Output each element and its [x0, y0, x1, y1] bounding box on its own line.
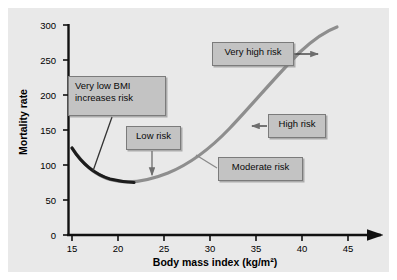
y-tick-50: 50 — [30, 195, 56, 206]
chart-figure: 300 250 200 150 100 50 0 15 20 25 30 35 … — [0, 0, 397, 280]
x-tick-40: 40 — [290, 243, 314, 254]
x-tick-30: 30 — [198, 243, 222, 254]
annotation-very-low-bmi: Very low BMI increases risk — [68, 76, 166, 116]
chart-canvas — [0, 0, 397, 280]
annotation-very-high-risk: Very high risk — [212, 42, 294, 66]
y-tick-200: 200 — [30, 90, 56, 101]
x-tick-35: 35 — [244, 243, 268, 254]
y-tick-300: 300 — [30, 20, 56, 31]
y-axis-ticks — [63, 25, 68, 235]
annotation-moderate-risk: Moderate risk — [218, 157, 303, 181]
leader-very-low-bmi — [93, 117, 112, 171]
annotation-high-risk: High risk — [268, 114, 326, 138]
leader-moderate-risk — [196, 155, 217, 168]
x-tick-45: 45 — [336, 243, 360, 254]
x-tick-20: 20 — [106, 243, 130, 254]
x-axis-title: Body mass index (kg/m²) — [70, 256, 360, 268]
x-tick-25: 25 — [152, 243, 176, 254]
annotation-low-risk: Low risk — [126, 126, 181, 150]
y-axis-title: Mortality rate — [17, 76, 29, 168]
y-tick-250: 250 — [30, 55, 56, 66]
mortality-curve-highlight — [72, 148, 134, 183]
y-tick-100: 100 — [30, 160, 56, 171]
x-tick-15: 15 — [60, 243, 84, 254]
y-tick-150: 150 — [30, 125, 56, 136]
y-tick-0: 0 — [30, 230, 56, 241]
